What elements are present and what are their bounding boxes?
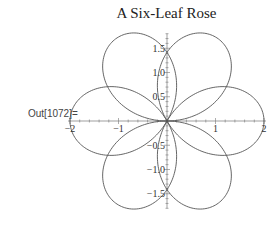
y-tick-label: 1.0 <box>153 67 166 78</box>
rose-plot: −2−1121.51.00.5−0.5−1.0−1.5 <box>0 0 277 230</box>
x-tick-label: 2 <box>262 123 267 134</box>
x-tick-label: −1 <box>113 123 124 134</box>
y-tick-label: 0.5 <box>153 91 166 102</box>
y-tick-label: −1.0 <box>147 164 165 175</box>
y-tick-label: −0.5 <box>147 140 165 151</box>
x-tick-label: −2 <box>65 123 76 134</box>
y-tick-label: 1.5 <box>153 43 166 54</box>
y-tick-label: −1.5 <box>147 188 165 199</box>
x-tick-label: 1 <box>213 123 218 134</box>
